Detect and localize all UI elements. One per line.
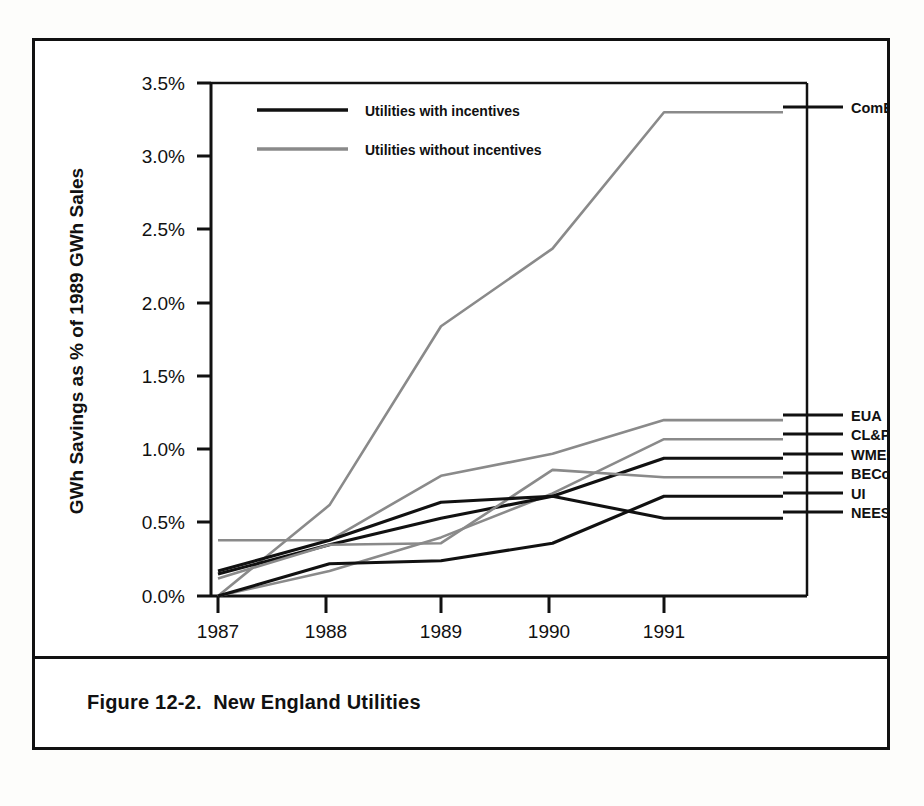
y-tick-label: 0.0% — [142, 586, 185, 607]
chart-area: 3.5% 3.0% 2.5% 2.0% 1.5% 1.0% 0.5% 0.0% — [35, 41, 887, 653]
series-label-clp: CL&P — [851, 427, 887, 443]
y-tick-label: 1.5% — [142, 366, 185, 387]
series-label-wmeco: WMECo — [851, 447, 887, 463]
y-tick-label: 1.0% — [142, 439, 185, 460]
series-label-nees: NEES — [851, 505, 887, 521]
legend-label-without-incentives: Utilities without incentives — [365, 142, 542, 158]
series-label-comelec: ComElec — [851, 100, 887, 116]
series-callouts: ComElec EUA CL&P WMECo BECo UI NEES — [783, 100, 887, 521]
y-tick-label: 2.5% — [142, 219, 185, 240]
series-line-comelec — [218, 112, 783, 596]
series-label-beco: BECo — [851, 466, 887, 482]
x-tick-labels: 1987 1988 1989 1990 1991 — [197, 621, 685, 642]
line-chart-svg: 3.5% 3.0% 2.5% 2.0% 1.5% 1.0% 0.5% 0.0% — [35, 41, 887, 653]
figure-frame: 3.5% 3.0% 2.5% 2.0% 1.5% 1.0% 0.5% 0.0% — [32, 38, 890, 750]
y-tick-label: 2.0% — [142, 293, 185, 314]
legend: Utilities with incentives Utilities with… — [257, 103, 542, 158]
x-tick-label: 1988 — [305, 621, 347, 642]
x-tick-marks — [218, 596, 664, 613]
caption-divider — [35, 656, 887, 659]
y-tick-marks — [197, 83, 211, 596]
y-tick-label: 0.5% — [142, 512, 185, 533]
series-line-beco — [218, 470, 783, 579]
figure-page: 3.5% 3.0% 2.5% 2.0% 1.5% 1.0% 0.5% 0.0% — [0, 0, 924, 806]
figure-caption: Figure 12-2. New England Utilities — [87, 691, 421, 714]
y-tick-label: 3.5% — [142, 73, 185, 94]
x-tick-label: 1989 — [420, 621, 462, 642]
series-label-ui: UI — [851, 486, 866, 502]
y-tick-label: 3.0% — [142, 146, 185, 167]
y-axis-title: GWh Savings as % of 1989 GWh Sales — [66, 168, 87, 514]
data-series-group — [218, 112, 783, 596]
x-tick-label: 1991 — [643, 621, 685, 642]
x-tick-label: 1987 — [197, 621, 239, 642]
series-label-eua: EUA — [851, 408, 882, 424]
y-tick-labels: 3.5% 3.0% 2.5% 2.0% 1.5% 1.0% 0.5% 0.0% — [142, 73, 185, 607]
x-tick-label: 1990 — [528, 621, 570, 642]
series-line-wmeco — [218, 458, 783, 574]
legend-label-with-incentives: Utilities with incentives — [365, 103, 520, 119]
